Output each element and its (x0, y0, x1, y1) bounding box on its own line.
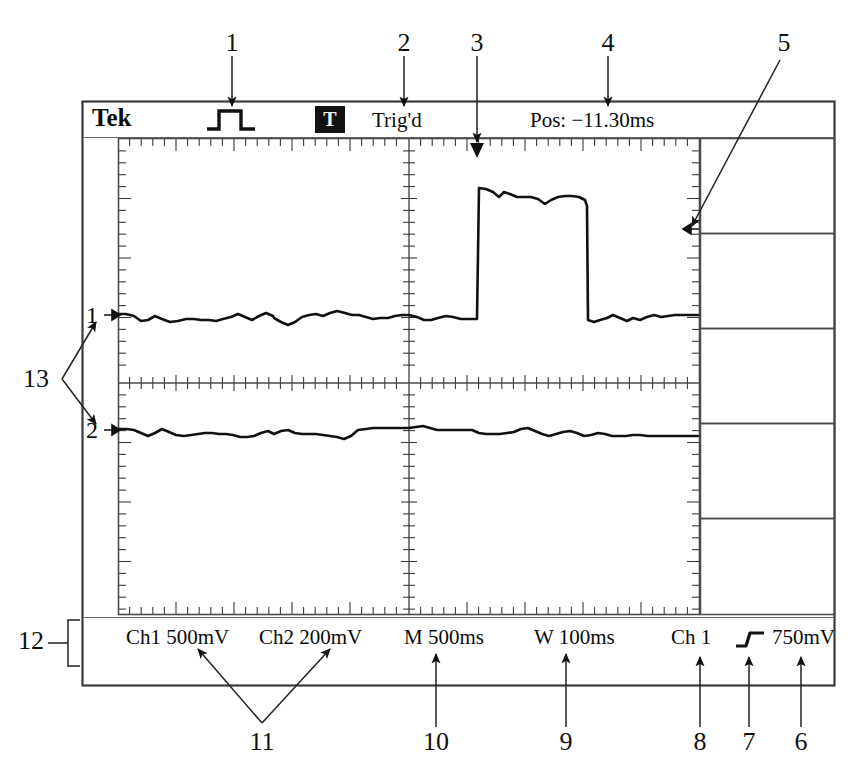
callout-number-13: 13 (16, 366, 56, 392)
callout-number-11: 11 (242, 729, 282, 755)
callout-number-10: 10 (416, 729, 456, 755)
ch2-ground-marker[interactable] (104, 425, 120, 435)
callout-bracket-12 (68, 620, 80, 666)
ch2-waveform-trace (118, 426, 698, 439)
trigger-level-marker[interactable] (683, 224, 699, 234)
scope-bezel (83, 102, 835, 686)
callout-number-1: 1 (212, 30, 252, 56)
figure-canvas: Tek T Trig'd Pos: −11.30ms 1 2 Ch1 500mV… (0, 0, 851, 776)
trigger-source-readout[interactable]: Ch 1 (671, 627, 711, 648)
callout-leader-5 (692, 60, 780, 226)
ch2-marker-label: 2 (86, 418, 98, 442)
ch1-marker-label: 1 (86, 303, 98, 327)
ch1-ground-marker[interactable] (104, 310, 120, 320)
trigger-level-readout[interactable]: 750mV (772, 627, 835, 648)
side-menu-button-5[interactable] (701, 519, 835, 615)
side-menu-button-2[interactable] (701, 234, 835, 329)
position-readout: Pos: −11.30ms (530, 110, 654, 131)
callout-number-9: 9 (546, 729, 586, 755)
side-menu-button-3[interactable] (701, 329, 835, 424)
trigger-t-badge[interactable]: T (315, 106, 345, 133)
ch1-waveform-trace (118, 188, 698, 325)
main-timebase-readout[interactable]: M 500ms (404, 627, 484, 648)
callout-number-3: 3 (457, 30, 497, 56)
ch1-vertical-scale-readout[interactable]: Ch1 500mV (126, 627, 229, 648)
callout-number-6: 6 (781, 729, 821, 755)
trig-d-status: Trig'd (372, 110, 422, 131)
callout-number-12: 12 (11, 628, 51, 654)
callout-number-7: 7 (729, 729, 769, 755)
rising-edge-icon[interactable] (735, 629, 765, 649)
callout-number-2: 2 (384, 30, 424, 56)
callout-number-5: 5 (764, 30, 804, 56)
callout-number-4: 4 (588, 30, 628, 56)
window-timebase-readout[interactable]: W 100ms (534, 627, 615, 648)
side-menu-button-4[interactable] (701, 424, 835, 519)
callout-number-8: 8 (680, 729, 720, 755)
tek-logo: Tek (92, 105, 131, 130)
side-menu-button-1[interactable] (701, 139, 835, 234)
side-menu[interactable] (701, 139, 835, 615)
trigger-waveform-icon[interactable] (205, 107, 259, 133)
ch2-vertical-scale-readout[interactable]: Ch2 200mV (259, 627, 362, 648)
callout-leader-13a (62, 322, 96, 379)
trigger-position-marker[interactable] (470, 143, 484, 158)
graticule (119, 139, 700, 615)
